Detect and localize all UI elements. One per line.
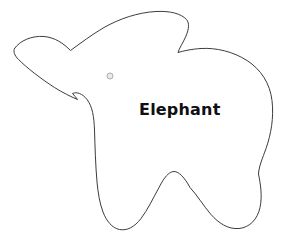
template-canvas: Elephant: [0, 0, 295, 250]
eye-icon: [107, 73, 113, 79]
elephant-outline: [14, 11, 273, 229]
shape-label: Elephant: [139, 101, 221, 119]
elephant-shape-svg: [0, 0, 295, 250]
